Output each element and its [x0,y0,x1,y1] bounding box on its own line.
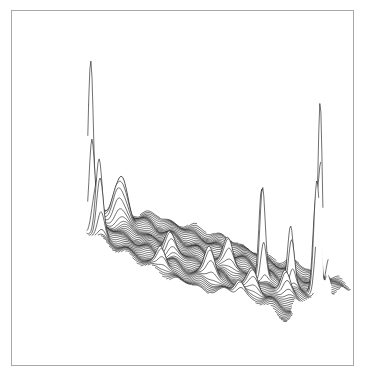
ridgeline-profiles [87,61,351,322]
population-surface-plot [0,0,368,378]
